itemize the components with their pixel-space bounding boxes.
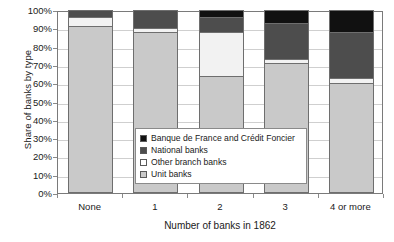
x-tick-mark (57, 194, 58, 198)
x-tick-mark (187, 194, 188, 198)
x-tick-label: None (57, 201, 122, 212)
y-tick-mark (53, 194, 57, 195)
x-tick-mark (318, 194, 319, 198)
bar-segment[interactable] (329, 10, 374, 32)
y-tick-label: 70% (14, 61, 52, 71)
bar-segment[interactable] (68, 26, 113, 193)
legend-item[interactable]: Other branch banks (140, 156, 302, 168)
legend-swatch-icon (140, 171, 147, 178)
x-axis-title: Number of banks in 1862 (57, 220, 383, 231)
y-tick-mark (53, 176, 57, 177)
y-tick-label: 40% (14, 116, 52, 126)
bar-segment[interactable] (133, 28, 178, 32)
chart-legend: Banque de France and Crédit FoncierNatio… (135, 128, 307, 184)
bar-segment[interactable] (199, 32, 244, 76)
legend-label: Other branch banks (151, 157, 226, 167)
y-tick-label: 0% (14, 189, 52, 199)
legend-swatch-icon (140, 159, 147, 166)
y-tick-label: 80% (14, 43, 52, 53)
y-tick-label: 60% (14, 79, 52, 89)
bar-segment[interactable] (199, 10, 244, 17)
legend-swatch-icon (140, 135, 147, 142)
bar-segment[interactable] (329, 32, 374, 78)
legend-label: Banque de France and Crédit Foncier (151, 133, 295, 143)
legend-item[interactable]: National banks (140, 144, 302, 156)
bar-segment[interactable] (329, 83, 374, 193)
y-tick-label: 30% (14, 134, 52, 144)
y-tick-mark (53, 66, 57, 67)
y-tick-label: 90% (14, 24, 52, 34)
y-tick-mark (53, 48, 57, 49)
stacked-bar-chart: Share of banks by type 0%10%20%30%40%50%… (0, 0, 394, 242)
legend-item[interactable]: Unit banks (140, 168, 302, 180)
bar-group[interactable] (329, 12, 374, 193)
x-tick-mark (383, 194, 384, 198)
y-tick-label: 10% (14, 171, 52, 181)
y-tick-mark (53, 157, 57, 158)
bar-segment[interactable] (329, 78, 374, 83)
bar-segment[interactable] (264, 23, 309, 60)
x-tick-label: 2 (187, 201, 252, 212)
bar-segment[interactable] (264, 59, 309, 63)
x-tick-label: 1 (122, 201, 187, 212)
y-axis-tick-labels: 0%10%20%30%40%50%60%70%80%90%100% (14, 0, 52, 242)
y-tick-label: 100% (14, 6, 52, 16)
y-tick-mark (53, 29, 57, 30)
bar-segment[interactable] (68, 10, 113, 17)
y-tick-mark (53, 139, 57, 140)
y-tick-label: 50% (14, 98, 52, 108)
bar-segment[interactable] (199, 17, 244, 32)
legend-label: National banks (151, 145, 208, 155)
x-tick-mark (253, 194, 254, 198)
bar-segment[interactable] (264, 10, 309, 23)
x-tick-label: 3 (253, 201, 318, 212)
legend-label: Unit banks (151, 169, 192, 179)
x-tick-mark (122, 194, 123, 198)
legend-item[interactable]: Banque de France and Crédit Foncier (140, 132, 302, 144)
legend-swatch-icon (140, 147, 147, 154)
y-tick-mark (53, 11, 57, 12)
y-tick-label: 20% (14, 152, 52, 162)
y-tick-mark (53, 103, 57, 104)
bar-segment[interactable] (68, 17, 113, 26)
x-tick-label: 4 or more (318, 201, 383, 212)
y-tick-mark (53, 84, 57, 85)
bar-segment[interactable] (133, 10, 178, 28)
bar-group[interactable] (68, 12, 113, 193)
y-tick-mark (53, 121, 57, 122)
